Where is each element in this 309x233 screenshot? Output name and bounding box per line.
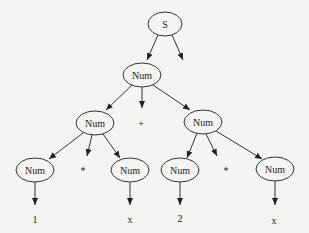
node-num_rr: Num xyxy=(256,157,294,181)
node-num_left: Num xyxy=(76,111,114,135)
node-num_ll: Num xyxy=(16,158,54,182)
node-label: + xyxy=(138,118,144,129)
node-label: 2 xyxy=(178,213,183,224)
node-label: S xyxy=(162,19,168,30)
parse-tree-diagram: SNumNum+NumNum*NumNum*Num1x2x xyxy=(0,0,309,233)
node-label: Num xyxy=(170,165,190,176)
node-label: Num xyxy=(132,70,152,81)
node-star_left: * xyxy=(81,165,86,176)
edge-arrow xyxy=(103,134,120,158)
node-x_right: x xyxy=(272,215,277,226)
node-star_right: * xyxy=(224,165,229,176)
node-label: x xyxy=(272,215,277,226)
node-num_rl: Num xyxy=(161,158,199,182)
node-two: 2 xyxy=(178,213,183,224)
node-num_root: Num xyxy=(123,63,161,87)
node-label: * xyxy=(81,165,86,176)
node-label: x xyxy=(128,214,133,225)
node-s: S xyxy=(148,12,182,36)
edge-arrow xyxy=(147,35,158,60)
edge-arrow xyxy=(172,35,183,60)
node-one: 1 xyxy=(33,214,38,225)
edge-arrow xyxy=(216,131,262,159)
node-label: Num xyxy=(120,165,140,176)
node-plus: + xyxy=(138,118,144,129)
node-label: Num xyxy=(85,118,105,129)
edge-arrow xyxy=(49,133,83,159)
node-label: Num xyxy=(25,165,45,176)
node-label: Num xyxy=(265,164,285,175)
node-label: Num xyxy=(193,117,213,128)
edges-group xyxy=(35,35,275,205)
edge-arrow xyxy=(87,135,92,156)
node-num_lr: Num xyxy=(111,158,149,182)
node-x_left: x xyxy=(128,214,133,225)
edge-arrow xyxy=(106,85,132,110)
edge-arrow xyxy=(206,134,217,156)
edge-arrow xyxy=(153,85,190,110)
node-num_right: Num xyxy=(184,110,222,134)
node-label: 1 xyxy=(33,214,38,225)
edge-arrow xyxy=(187,133,197,158)
node-label: * xyxy=(224,165,229,176)
nodes-group: SNumNum+NumNum*NumNum*Num1x2x xyxy=(16,12,294,226)
